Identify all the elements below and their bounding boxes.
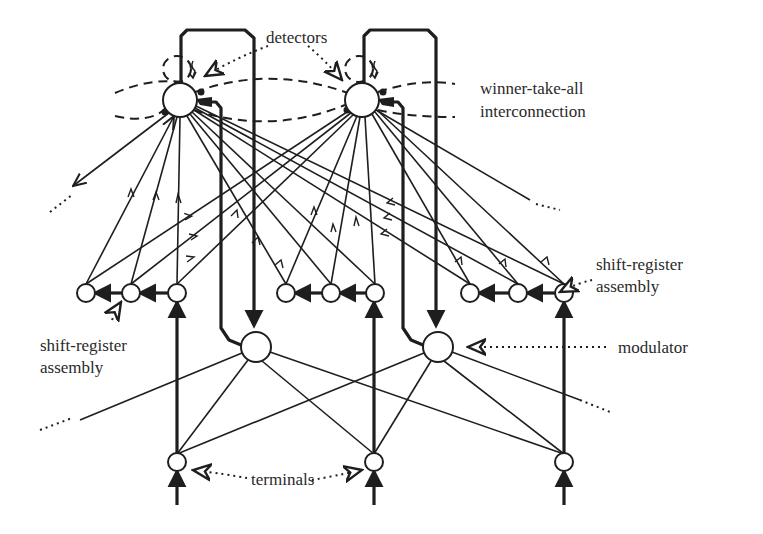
modulator-connections [80, 352, 580, 454]
sr-right-cell-2 [509, 284, 527, 302]
label-modulator: modulator [618, 338, 688, 357]
modulator-node-1 [241, 332, 271, 362]
detector-node-2 [345, 83, 379, 117]
terminal-nodes [168, 453, 573, 471]
sr-right-cell-3 [555, 284, 573, 302]
label-sr-left-line2: assembly [40, 358, 104, 377]
label-detectors: detectors [266, 28, 327, 47]
sr-right-cell-1 [461, 284, 479, 302]
detector-1-connections [73, 106, 564, 284]
modulator-node-2 [423, 332, 453, 362]
detector-node-1 [163, 83, 197, 117]
self-loop-arrows [189, 61, 378, 78]
label-sr-left-line1: shift-register [40, 336, 127, 355]
sr-left-cell-3 [168, 284, 186, 302]
terminal-feeds [177, 303, 564, 505]
sr-middle-cell-3 [366, 284, 384, 302]
label-sr-right-line2: assembly [596, 277, 660, 296]
label-wta-line1: winner-take-all [480, 79, 584, 98]
label-wta-line2: interconnection [480, 102, 586, 121]
terminal-node-1 [168, 453, 186, 471]
sr-middle-cell-2 [322, 284, 340, 302]
continuation-stubs [40, 195, 610, 430]
modulator-nodes [241, 332, 453, 362]
sr-middle-cell-1 [277, 284, 295, 302]
terminal-node-2 [365, 453, 383, 471]
network-diagram: detectors winner-take-all interconnectio… [0, 0, 763, 534]
sr-left-cell-1 [77, 284, 95, 302]
label-terminals: terminals [251, 470, 314, 489]
label-sr-right-line1: shift-register [596, 255, 683, 274]
sr-left-cell-2 [122, 284, 140, 302]
terminal-node-3 [555, 453, 573, 471]
